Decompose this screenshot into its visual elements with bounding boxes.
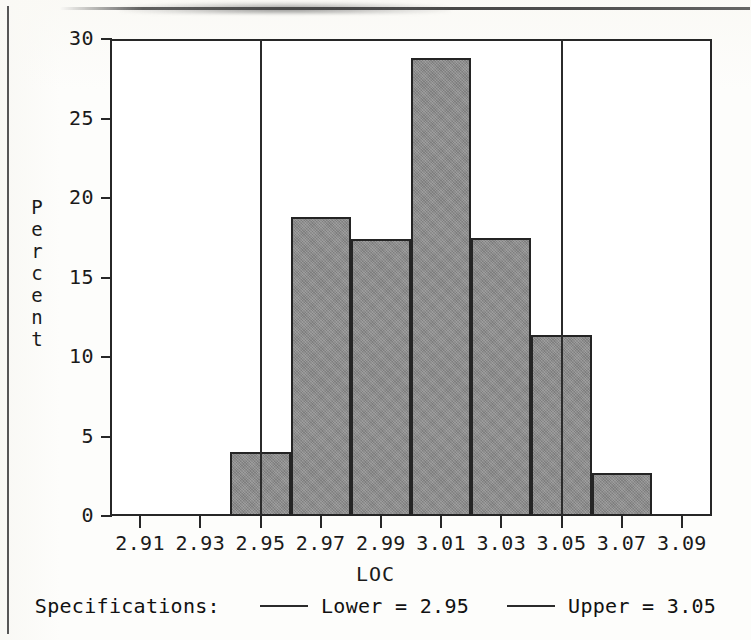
y-axis-tick-label: 30 [50, 28, 94, 48]
y-axis-title-letter: e [26, 284, 48, 306]
x-axis-tick [380, 516, 382, 528]
y-axis-title-letter: r [26, 240, 48, 262]
histogram-bar [592, 473, 652, 516]
x-axis-tick [199, 516, 201, 528]
x-axis-tick [260, 516, 262, 528]
x-axis-tick [561, 516, 563, 528]
legend-entry-upper: Upper = 3.05 [507, 594, 716, 618]
y-axis-tick-label: 5 [50, 426, 94, 446]
x-axis-tick [440, 516, 442, 528]
y-axis-tick [101, 197, 112, 199]
y-axis-tick-label: 20 [50, 187, 94, 207]
y-axis-title: Percent [26, 196, 48, 350]
y-axis-tick-label: 10 [50, 346, 94, 366]
upper-spec-line [561, 39, 563, 516]
legend-entry-lower: Lower = 2.95 [260, 594, 469, 618]
y-axis-title-letter: t [26, 328, 48, 350]
histogram-bar [291, 217, 351, 516]
x-axis-tick [500, 516, 502, 528]
y-axis-tick-label-wrap: 15 [42, 267, 94, 287]
y-axis-tick-label-wrap: 20 [42, 187, 94, 207]
histogram-bar [351, 239, 411, 516]
y-axis-tick [101, 436, 112, 438]
y-axis-title-letter: e [26, 218, 48, 240]
specifications-legend: Specifications: Lower = 2.95 Upper = 3.0… [0, 594, 751, 618]
y-axis-tick [101, 277, 112, 279]
lower-spec-line [260, 39, 262, 516]
scanned-page: 302520151050 Percent 2.912.932.952.972.9… [0, 0, 751, 640]
legend-label-upper: Upper = 3.05 [568, 594, 716, 618]
y-axis-title-letter: c [26, 262, 48, 284]
lower-spec-line-icon [260, 605, 308, 607]
legend-label-lower: Lower = 2.95 [321, 594, 469, 618]
y-axis-title-letter: n [26, 306, 48, 328]
y-axis-tick [101, 515, 112, 517]
y-axis-title-letter: P [26, 196, 48, 218]
y-axis-tick [101, 118, 112, 120]
x-axis-tick-label: 3.09 [642, 532, 722, 554]
y-axis-tick-label: 15 [50, 267, 94, 287]
x-axis-tick [621, 516, 623, 528]
bars-layer [110, 39, 712, 516]
x-axis-tick [139, 516, 141, 528]
histogram-bar [411, 58, 471, 516]
y-axis-tick-label-wrap: 25 [42, 108, 94, 128]
y-axis-tick-label-wrap: 30 [42, 28, 94, 48]
y-axis-tick-label: 0 [50, 505, 94, 525]
y-axis-tick-label-wrap: 10 [42, 346, 94, 366]
x-axis-tick [681, 516, 683, 528]
y-axis-tick-label-wrap: 5 [42, 426, 94, 446]
histogram-chart: 302520151050 Percent 2.912.932.952.972.9… [0, 0, 751, 640]
legend-title: Specifications: [35, 594, 220, 618]
x-axis-title: LOC [0, 563, 751, 585]
y-axis-tick-label: 25 [50, 108, 94, 128]
y-axis-tick-label-wrap: 0 [42, 505, 94, 525]
y-axis-tick [101, 38, 112, 40]
x-axis-tick [320, 516, 322, 528]
upper-spec-line-icon [507, 605, 555, 607]
histogram-bar [471, 238, 531, 516]
y-axis-tick [101, 356, 112, 358]
